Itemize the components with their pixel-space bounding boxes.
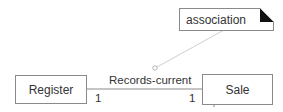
- multiplicity-right: 1: [189, 92, 195, 104]
- multiplicity-left: 1: [95, 92, 101, 104]
- note-anchor-circle: [153, 66, 157, 70]
- note-connector-line: [157, 30, 224, 67]
- class-sale[interactable]: Sale: [202, 74, 273, 105]
- note-association[interactable]: association: [179, 8, 274, 31]
- class-sale-name: Sale: [225, 83, 249, 97]
- note-fold-corner-icon: [260, 8, 274, 22]
- association-name: Records-current: [109, 74, 191, 86]
- note-text: association: [186, 13, 246, 27]
- class-register[interactable]: Register: [15, 75, 87, 104]
- class-register-name: Register: [29, 83, 74, 97]
